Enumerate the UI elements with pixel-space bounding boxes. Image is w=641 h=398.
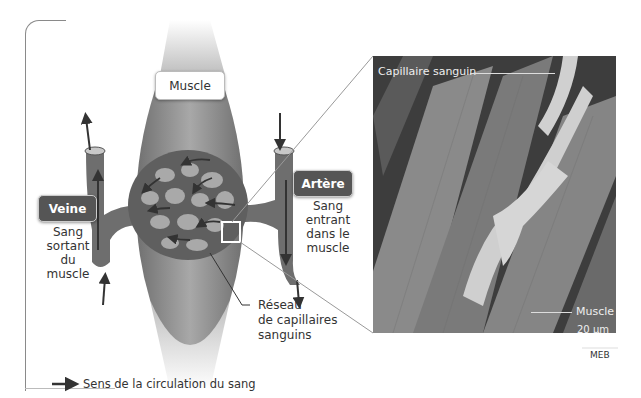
- artery-title: Artère: [301, 177, 344, 191]
- artery-description: Sang entrant dans le muscle: [300, 199, 356, 255]
- network-label: Réseau de capillaires sanguins: [258, 298, 337, 343]
- muscle-label: Muscle: [169, 79, 211, 93]
- vein-out-arrow: [86, 118, 90, 150]
- muscle-photo-label: Muscle: [576, 305, 614, 318]
- scale-bar: [582, 347, 618, 349]
- zoom-line-top: [232, 56, 373, 222]
- vein-label-box: Veine: [38, 195, 97, 222]
- micrograph-texture: [373, 56, 616, 333]
- legend-text: Sens de la circulation du sang: [83, 377, 256, 391]
- network-label-line: Réseau: [258, 298, 337, 313]
- muscle-label-box: Muscle: [155, 71, 225, 100]
- muscle-pointer-line: [531, 312, 572, 313]
- vein-desc-line: sortant: [38, 239, 98, 253]
- artery-label-box: Artère: [293, 170, 353, 197]
- capillary-label: Capillaire sanguin: [378, 65, 476, 78]
- vein-title: Veine: [49, 202, 87, 216]
- artery-desc-line: Sang: [300, 199, 356, 213]
- artery-desc-line: dans le: [300, 227, 356, 241]
- network-label-line: sanguins: [258, 328, 337, 343]
- vein-desc-line: Sang: [38, 225, 98, 239]
- scale-value: 20 µm: [577, 324, 609, 333]
- network-label-line: de capillaires: [258, 313, 337, 328]
- sem-micrograph: Capillaire sanguin Muscle 20 µm: [373, 56, 616, 333]
- artery-desc-line: muscle: [300, 241, 356, 255]
- vein-description: Sang sortant du muscle: [38, 225, 98, 281]
- vein-desc-line: du muscle: [38, 253, 98, 281]
- upper-tendon: [160, 20, 225, 75]
- artery-desc-line: entrant: [300, 213, 356, 227]
- technique-label: MEB: [590, 350, 610, 360]
- vein-in-arrow: [103, 278, 105, 305]
- capillary-pointer-line: [470, 73, 555, 74]
